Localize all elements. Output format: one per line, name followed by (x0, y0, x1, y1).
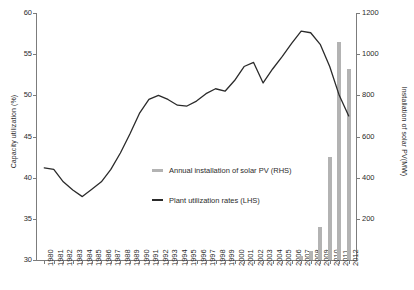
y-axis-right-tick-label: 600 (362, 133, 375, 141)
y-axis-left-tick-label: 40 (14, 174, 32, 182)
y-axis-left-tick (33, 178, 36, 179)
y-axis-left-tick-label: 55 (14, 50, 32, 58)
x-axis-tick (73, 261, 74, 264)
legend-bar-swatch-icon (152, 169, 163, 172)
y-axis-right-tick (357, 95, 360, 96)
legend-item-label: Plant utilization rates (LHS) (169, 196, 260, 205)
y-axis-right-tick (357, 13, 360, 14)
y-axis-left-tick-label: 60 (14, 9, 32, 17)
bar (328, 157, 332, 260)
x-axis-tick (177, 261, 178, 264)
y-axis-right-tick (357, 219, 360, 220)
x-axis-tick (216, 261, 217, 264)
y-axis-left-tick-label: 45 (14, 133, 32, 141)
y-axis-right-tick (357, 178, 360, 179)
x-axis-tick (82, 261, 83, 264)
chart-legend: Annual installation of solar PV (RHS) Pl… (152, 163, 292, 223)
y-axis-right-title: Installation of solar PV(MW) (401, 77, 408, 187)
x-axis-tick (330, 261, 331, 264)
x-axis-tick (254, 261, 255, 264)
y-axis-left-tick (33, 260, 36, 261)
line-series-layer (0, 0, 414, 290)
bar (337, 42, 341, 260)
x-axis-tick (235, 261, 236, 264)
x-axis-tick (206, 261, 207, 264)
x-axis-tick (273, 261, 274, 264)
y-axis-right-tick-label: 1000 (362, 50, 379, 58)
x-axis-tick (120, 261, 121, 264)
x-axis-tick (197, 261, 198, 264)
legend-item-solar-pv: Annual installation of solar PV (RHS) (152, 163, 292, 177)
x-axis-tick (187, 261, 188, 264)
x-axis-tick (282, 261, 283, 264)
x-axis-tick (111, 261, 112, 264)
y-axis-right-tick-label: 800 (362, 91, 375, 99)
x-axis-tick (92, 261, 93, 264)
y-axis-left-tick (33, 219, 36, 220)
y-axis-left-tick-label: 35 (14, 215, 32, 223)
legend-line-swatch-icon (152, 199, 163, 201)
bar (299, 256, 303, 260)
x-axis-tick-label: 2012 (352, 249, 360, 266)
x-axis-tick (349, 261, 350, 264)
y-axis-right-tick-label: 200 (362, 215, 375, 223)
y-axis-left-tick (33, 137, 36, 138)
x-axis-tick (149, 261, 150, 264)
y-axis-left-tick (33, 13, 36, 14)
bar (347, 69, 351, 260)
legend-item-plant-utilization: Plant utilization rates (LHS) (152, 193, 292, 207)
y-axis-right-tick-label: 1200 (362, 9, 379, 17)
x-axis-tick (54, 261, 55, 264)
bar (309, 251, 313, 260)
x-axis-tick (292, 261, 293, 264)
x-axis-tick (225, 261, 226, 264)
x-axis-tick (168, 261, 169, 264)
x-axis-tick (301, 261, 302, 264)
x-axis-tick (311, 261, 312, 264)
x-axis-tick (139, 261, 140, 264)
x-axis-tick (158, 261, 159, 264)
y-axis-right-tick-label: 400 (362, 174, 375, 182)
bar (318, 227, 322, 260)
chart-container: Capacity utilization (%) Installation of… (0, 0, 414, 290)
y-axis-left-tick-label: 50 (14, 91, 32, 99)
x-axis-tick (101, 261, 102, 264)
x-axis-tick (263, 261, 264, 264)
y-axis-left-title: Capacity utilization (%) (10, 87, 17, 177)
y-axis-left-line (36, 13, 37, 261)
y-axis-left-tick (33, 54, 36, 55)
y-axis-left-tick (33, 95, 36, 96)
y-axis-right-tick (357, 137, 360, 138)
y-axis-left-tick-label: 30 (14, 256, 32, 264)
x-axis-tick (130, 261, 131, 264)
legend-item-label: Annual installation of solar PV (RHS) (169, 166, 292, 175)
y-axis-right-tick (357, 54, 360, 55)
x-axis-tick (244, 261, 245, 264)
